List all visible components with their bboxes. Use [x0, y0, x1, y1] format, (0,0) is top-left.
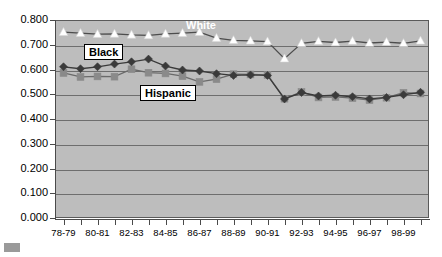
series-label-hispanic: Hispanic — [140, 85, 196, 101]
data-point — [94, 73, 101, 80]
series-label-black: Black — [84, 44, 123, 60]
x-axis-tick-label: 88-89 — [221, 228, 245, 238]
data-point — [196, 67, 204, 75]
x-axis-tick — [200, 220, 201, 225]
y-axis-tick-label: 0.800 — [2, 14, 48, 25]
x-axis-tick — [81, 220, 82, 225]
data-point — [94, 63, 102, 71]
data-point — [145, 69, 152, 76]
x-axis-tick-label: 94-95 — [323, 228, 347, 238]
x-axis-tick — [149, 220, 150, 225]
y-axis-tick-label: 0.700 — [2, 39, 48, 50]
y-axis-tick-label: 0.100 — [2, 187, 48, 198]
x-axis-tick-label: 86-87 — [187, 228, 211, 238]
x-axis-tick — [166, 220, 167, 225]
series-label-white: White — [186, 19, 216, 31]
x-axis-tick-label: 84-85 — [153, 228, 177, 238]
y-axis-tick — [50, 218, 55, 219]
x-axis-tick-label: 80-81 — [85, 228, 109, 238]
x-axis-tick — [285, 220, 286, 225]
x-axis-tick-label: 82-83 — [119, 228, 143, 238]
data-point — [111, 73, 118, 80]
y-axis-tick-label: 0.400 — [2, 113, 48, 124]
x-axis-line — [55, 219, 430, 220]
data-point — [348, 36, 356, 44]
data-point — [110, 29, 118, 37]
x-axis-tick — [268, 220, 269, 225]
x-axis-tick-label: 96-97 — [357, 228, 381, 238]
data-point — [128, 58, 136, 66]
y-axis-tick-label: 0.600 — [2, 64, 48, 75]
x-axis-tick — [183, 220, 184, 225]
x-axis-tick — [98, 220, 99, 225]
chart-container: 0.8000.7000.6000.5000.4000.3000.2000.100… — [0, 0, 442, 257]
x-axis-tick — [64, 220, 65, 225]
x-axis-tick — [387, 220, 388, 225]
x-axis-tick — [370, 220, 371, 225]
y-axis-tick-label: 0.200 — [2, 163, 48, 174]
data-point — [111, 60, 119, 68]
x-axis-tick-label: 98-99 — [391, 228, 415, 238]
data-point — [416, 36, 424, 44]
x-axis-tick — [234, 220, 235, 225]
data-point — [162, 62, 170, 70]
corner-mark — [4, 243, 20, 252]
x-axis-tick — [302, 220, 303, 225]
x-axis-tick — [319, 220, 320, 225]
data-point — [77, 65, 85, 73]
x-axis-tick — [404, 220, 405, 225]
y-axis-tick-label: 0.000 — [2, 212, 48, 223]
x-axis-tick — [132, 220, 133, 225]
data-point — [128, 66, 135, 73]
x-axis-tick — [115, 220, 116, 225]
x-axis-tick — [217, 220, 218, 225]
data-point — [196, 78, 203, 85]
data-point — [162, 70, 169, 77]
data-point — [77, 74, 84, 81]
x-axis-tick — [421, 220, 422, 225]
data-point — [314, 37, 322, 45]
x-axis-tick-label: 78-79 — [51, 228, 75, 238]
y-axis-tick-label: 0.300 — [2, 138, 48, 149]
x-axis-tick — [251, 220, 252, 225]
y-axis-labels: 0.8000.7000.6000.5000.4000.3000.2000.100… — [0, 0, 48, 257]
data-point — [145, 55, 153, 63]
y-axis-tick-label: 0.500 — [2, 88, 48, 99]
data-point — [382, 37, 390, 45]
data-point — [59, 28, 67, 36]
x-axis-tick-label: 92-93 — [289, 228, 313, 238]
x-axis-tick — [336, 220, 337, 225]
x-axis-tick-label: 90-91 — [255, 228, 279, 238]
x-axis-tick — [353, 220, 354, 225]
